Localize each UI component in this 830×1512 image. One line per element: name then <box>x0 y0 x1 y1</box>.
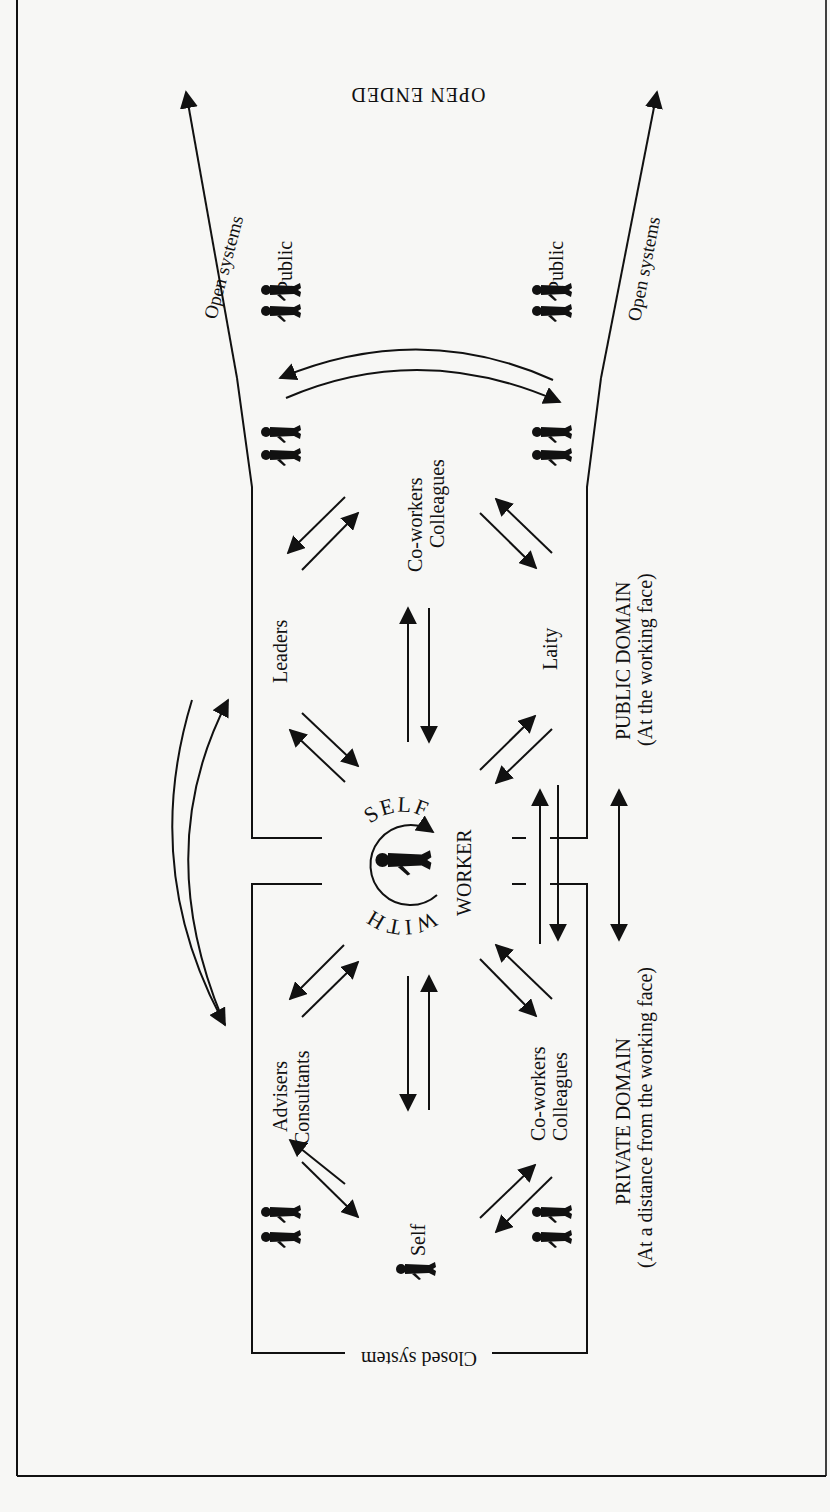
worker-label: WORKER <box>453 829 475 916</box>
center-arc-top: SELF <box>359 792 433 828</box>
open-ended-title: OPEN ENDED <box>351 84 486 106</box>
advisers-label-line2: Consultants <box>291 1050 313 1145</box>
public-left-label: Public <box>274 241 296 292</box>
closed-system-label: Closed system <box>361 1347 478 1370</box>
leaders-label: Leaders <box>269 619 291 683</box>
coworkers-bottom-line2: Colleagues <box>549 1052 572 1141</box>
public-domain-title: PUBLIC DOMAIN <box>612 582 634 740</box>
public-right-label: Public <box>545 241 567 292</box>
curved-arrow-public-left-to-right <box>286 370 560 402</box>
curved-arrow-public-right-to-left <box>280 349 553 380</box>
diagram-canvas: SELF WITH WORKER Open systems Open syste… <box>0 0 830 1512</box>
private-domain-subtitle: (At a distance from the working face) <box>634 967 657 1268</box>
curved-arrow-left-down <box>172 700 225 1025</box>
self-label: Self <box>407 1223 429 1256</box>
open-systems-left-label: Open systems <box>200 213 248 321</box>
curved-arrow-left-up <box>188 700 228 1025</box>
advisers-label-line1: Advisers <box>269 1061 291 1132</box>
coworkers-top-line1: Co-workers <box>404 477 426 572</box>
private-domain-title: PRIVATE DOMAIN <box>612 1038 634 1205</box>
coworkers-top-line2: Colleagues <box>426 459 449 548</box>
center-arc-bottom: WITH <box>361 905 441 941</box>
coworkers-bottom-line1: Co-workers <box>527 1046 549 1141</box>
laity-label: Laity <box>539 628 562 670</box>
public-domain-subtitle: (At the working face) <box>634 573 657 746</box>
